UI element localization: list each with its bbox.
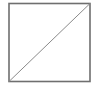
square-with-diagonal-icon bbox=[0, 0, 92, 85]
diagonal-line bbox=[9, 4, 90, 82]
figure-canvas bbox=[0, 0, 92, 85]
